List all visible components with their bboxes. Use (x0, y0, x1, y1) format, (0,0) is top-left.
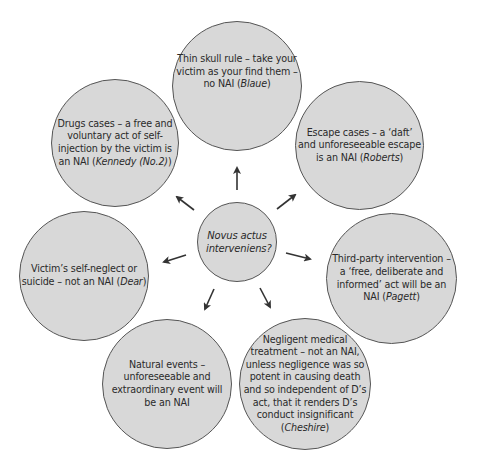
node-third-party: Third-party intervention – a ‘free, deli… (326, 213, 457, 344)
arrow-to-drugs (177, 197, 194, 210)
node-label: Natural events – unforeseeable and extra… (111, 359, 223, 409)
node-drugs-cases: Drugs cases – a free and voluntary act o… (51, 79, 179, 207)
node-label: Escape cases – a ‘daft’ and unforeseeabl… (298, 127, 422, 165)
node-thin-skull: Thin skull rule – take your victim as yo… (172, 21, 302, 151)
node-negligent-medical: Negligent medical treatment – not an NAI… (239, 318, 371, 450)
node-label: Victim’s self-neglect or suicide – not a… (21, 263, 147, 288)
center-label: Novus actus interveniens? (206, 229, 268, 255)
node-label: Thin skull rule – take your victim as yo… (175, 53, 299, 91)
node-label: Drugs cases – a free and voluntary act o… (53, 118, 177, 168)
arrow-to-natural (205, 289, 214, 309)
node-label: Negligent medical treatment – not an NAI… (242, 334, 368, 435)
center-node-novus-actus: Novus actus interveniens? (197, 202, 277, 282)
arrow-to-self-neglect (164, 255, 186, 262)
node-self-neglect: Victim’s self-neglect or suicide – not a… (19, 211, 149, 341)
node-natural-events: Natural events – unforeseeable and extra… (102, 319, 232, 449)
arrow-to-third-party (286, 253, 310, 259)
arrow-to-escape (277, 195, 295, 209)
nai-diagram: Novus actus interveniens? Thin skull rul… (0, 0, 481, 464)
arrow-to-negligent (260, 288, 270, 307)
node-escape-cases: Escape cases – a ‘daft’ and unforeseeabl… (295, 81, 424, 210)
node-label: Third-party intervention – a ‘free, deli… (330, 253, 454, 303)
